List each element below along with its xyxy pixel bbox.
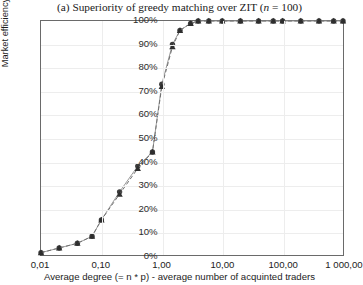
chart-title-equals: =: [269, 1, 281, 13]
x-tick-label: 100,00: [269, 259, 298, 270]
y-tick-label: 50%: [116, 133, 158, 143]
x-gridline: [102, 21, 103, 255]
y-tick-label: 30%: [116, 180, 158, 190]
x-tick-label: 0,01: [31, 259, 50, 270]
x-tick-label: 0,10: [91, 259, 110, 270]
y-gridline: [41, 139, 343, 140]
y-gridline: [41, 186, 343, 187]
y-axis-title-text: Market efficiency (%): [0, 0, 11, 88]
y-tick-label: 10%: [116, 227, 158, 237]
x-gridline: [163, 21, 164, 255]
x-gridline: [284, 21, 285, 255]
x-tick-label: 1 000,00: [325, 259, 362, 270]
y-axis-title: Market efficiency (%): [0, 74, 11, 88]
y-tick-label: 100%: [116, 15, 158, 25]
chart-title-prefix: (a) Superiority of greedy matching over …: [57, 1, 264, 13]
y-tick-label: 90%: [116, 39, 158, 49]
plot-area: [40, 20, 344, 256]
y-tick-label: 20%: [116, 204, 158, 214]
y-gridline: [41, 163, 343, 164]
series-line-triangle: [41, 21, 343, 253]
x-gridline: [223, 21, 224, 255]
y-tick-label: 40%: [116, 157, 158, 167]
x-axis-title: Average degree (= n * p) - average numbe…: [0, 271, 359, 283]
y-gridline: [41, 233, 343, 234]
series-layer: [41, 21, 343, 255]
y-tick-label: 70%: [116, 86, 158, 96]
y-gridline: [41, 45, 343, 46]
series-line-circle: [41, 21, 343, 253]
y-gridline: [41, 92, 343, 93]
y-gridline: [41, 68, 343, 69]
y-gridline: [41, 210, 343, 211]
x-tick-label: 10,00: [210, 259, 234, 270]
chart-title: (a) Superiority of greedy matching over …: [0, 0, 359, 15]
y-tick-label: 80%: [116, 62, 158, 72]
y-gridline: [41, 115, 343, 116]
y-tick-label: 60%: [116, 109, 158, 119]
x-tick-label: 1,00: [152, 259, 171, 270]
chart-title-n-value: 100: [281, 1, 298, 13]
chart-title-suffix: ): [298, 1, 302, 13]
